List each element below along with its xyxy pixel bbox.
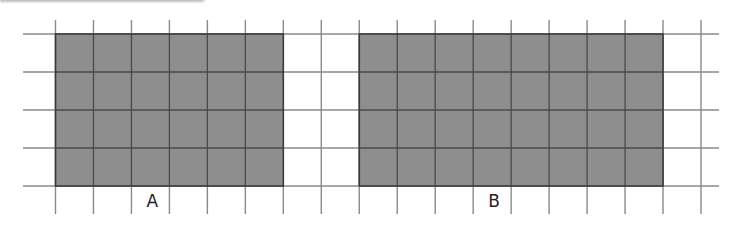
labels: AB bbox=[147, 191, 500, 211]
shapes bbox=[56, 34, 664, 186]
grid-diagram: AB bbox=[0, 0, 736, 232]
label-a: A bbox=[147, 191, 159, 211]
label-b: B bbox=[488, 191, 500, 211]
